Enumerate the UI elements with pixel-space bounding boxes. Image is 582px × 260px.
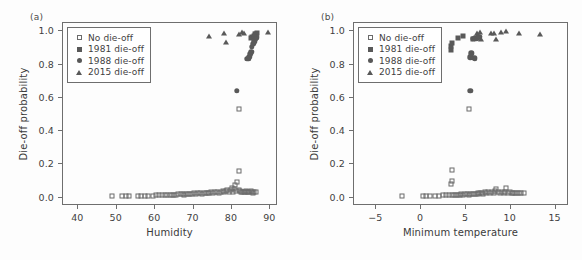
x-axis-tick-label: 15 [548,212,560,223]
legend-swatch-icon [368,47,373,52]
legend-swatch-icon [367,70,373,75]
data-point-triangle-filled [503,29,509,34]
legend-item-label: 1988 die-off [88,56,144,66]
figure-container: (a)4050607080900.00.20.40.60.81.0Humidit… [0,0,582,260]
y-axis-tick-label: 1.0 [321,25,345,36]
x-axis-tick [465,205,466,209]
legend-item[interactable]: 1988 die-off [364,55,435,67]
legend-marker-square-open [364,35,376,40]
data-point-square-open [449,179,454,184]
legend-item[interactable]: No die-off [73,32,144,44]
x-axis-tick-label: 40 [71,212,83,223]
y-axis-tick-label: 0.6 [321,91,345,102]
data-point-square-filled [450,40,455,45]
legend-item[interactable]: 1988 die-off [73,55,144,67]
legend-marker-square-open [73,35,85,40]
data-point-triangle-filled [491,31,497,36]
x-axis-tick-label: 70 [186,212,198,223]
legend-marker-circle-filled [364,58,376,63]
data-point-triangle-filled [265,29,271,34]
legend-marker-square-filled [364,47,376,52]
x-axis-tick [510,205,511,209]
legend-swatch-icon [77,47,82,52]
legend-item-label: No die-off [379,33,424,43]
x-axis-tick [77,205,78,209]
x-axis-title: Humidity [146,227,193,238]
legend-swatch-icon [77,35,82,40]
legend-swatch-icon [368,35,373,40]
x-axis-tick [269,205,270,209]
panel-b: (b)−50510150.00.20.40.60.81.0Minimum tem… [291,0,582,260]
y-axis-tick [58,97,62,98]
legend-item-label: No die-off [88,33,133,43]
x-axis-tick [193,205,194,209]
legend-item[interactable]: 1981 die-off [73,44,144,56]
x-axis-tick [420,205,421,209]
legend: No die-off1981 die-off1988 die-off2015 d… [67,27,151,83]
data-point-triangle-filled [478,36,484,41]
data-point-square-open [400,193,405,198]
x-axis-tick-label: 80 [225,212,237,223]
x-axis-tick [555,205,556,209]
data-point-triangle-filled [477,30,483,35]
legend-item-label: 1981 die-off [88,44,144,54]
legend-item-label: 1988 die-off [379,56,435,66]
x-axis-tick-label: 50 [110,212,122,223]
legend-marker-triangle-filled [73,70,85,75]
data-point-triangle-filled [206,34,212,39]
x-axis-tick-label: 90 [263,212,275,223]
legend: No die-off1981 die-off1988 die-off2015 d… [358,27,442,83]
y-axis-tick [349,64,353,65]
y-axis-tick-label: 0.0 [30,191,54,202]
data-point-square-open [522,191,527,196]
y-axis-tick-label: 0.2 [321,158,345,169]
panel-a: (a)4050607080900.00.20.40.60.81.0Humidit… [0,0,291,260]
data-point-square-open [235,180,240,185]
x-axis-tick [154,205,155,209]
y-axis-tick-label: 1.0 [30,25,54,36]
y-axis-tick-label: 0.0 [321,191,345,202]
y-axis-tick [349,163,353,164]
legend-item[interactable]: 1981 die-off [364,44,435,56]
data-point-square-filled [455,36,460,41]
legend-swatch-icon [77,58,82,63]
data-point-triangle-filled [221,31,227,36]
legend-swatch-icon [368,58,373,63]
legend-swatch-icon [76,70,82,75]
x-axis-tick [116,205,117,209]
x-axis-tick-label: 0 [417,212,423,223]
y-axis-tick [58,130,62,131]
legend-item[interactable]: No die-off [364,32,435,44]
data-point-triangle-filled [241,30,247,35]
panel-tag: (b) [321,12,334,22]
data-point-square-filled [448,48,453,53]
legend-item[interactable]: 2015 die-off [73,67,144,79]
data-point-square-open [126,193,131,198]
y-axis-title: Die-off probability [18,67,29,160]
legend-item-label: 1981 die-off [379,44,435,54]
y-axis-tick-label: 0.8 [321,58,345,69]
x-axis-tick-label: 5 [462,212,468,223]
data-point-triangle-filled [493,37,499,42]
legend-marker-triangle-filled [364,70,376,75]
panel-tag: (a) [30,12,43,22]
y-axis-tick [58,30,62,31]
legend-marker-square-filled [73,47,85,52]
legend-item[interactable]: 2015 die-off [364,67,435,79]
y-axis-tick [349,130,353,131]
y-axis-tick-label: 0.6 [30,91,54,102]
data-point-square-filled [461,33,466,38]
y-axis-tick-label: 0.4 [321,125,345,136]
x-axis-tick-label: 10 [504,212,516,223]
data-point-square-open [236,169,241,174]
x-axis-tick-label: −5 [368,212,382,223]
data-point-square-open [237,106,242,111]
y-axis-tick [58,64,62,65]
legend-item-label: 2015 die-off [88,67,144,77]
data-point-triangle-filled [251,31,257,36]
y-axis-tick [58,197,62,198]
legend-marker-circle-filled [73,58,85,63]
data-point-triangle-filled [516,31,522,36]
x-axis-title: Minimum temperature [403,227,518,238]
y-axis-title: Die-off probability [309,67,320,160]
